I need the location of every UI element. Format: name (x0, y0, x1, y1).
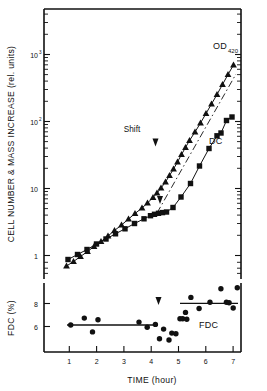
fdc-y-axis-title: FDC (%) (6, 300, 16, 336)
shift-label: Shift (124, 125, 141, 134)
growth-ytick-1: 1 (34, 253, 38, 260)
scientific-figure: 1 10 10 2 10 3 (0, 0, 267, 391)
x-axis-title: TIME (hour) (127, 375, 177, 385)
od420-series-label: OD (213, 41, 227, 51)
growth-ytick-1000: 10 (30, 52, 38, 59)
fdc-xtick-5: 5 (177, 358, 181, 365)
fdc-ytick-6: 6 (34, 324, 38, 331)
figure-background (0, 0, 267, 391)
fdc-xtick-6: 6 (204, 358, 208, 365)
fdc-ytick-8: 8 (34, 301, 38, 308)
fdc-series-label: FDC (199, 320, 218, 330)
fdc-xtick-1: 1 (67, 358, 71, 365)
od420-series-label-subscript: 420 (228, 48, 239, 54)
growth-y-axis-title: CELL NUMBER & MASS INCREASE (rel. units) (6, 46, 16, 243)
fdc-xtick-7: 7 (231, 358, 235, 365)
dc-series-label: DC (209, 136, 223, 146)
growth-ytick-100-exp: 2 (39, 117, 42, 122)
figure-container: 1 10 10 2 10 3 (0, 0, 267, 391)
fdc-xtick-2: 2 (95, 358, 99, 365)
fdc-xtick-3: 3 (122, 358, 126, 365)
fdc-xtick-4: 4 (149, 358, 153, 365)
growth-ytick-1000-exp: 3 (39, 50, 42, 55)
growth-ytick-100: 10 (30, 119, 38, 126)
growth-ytick-10: 10 (30, 186, 38, 193)
